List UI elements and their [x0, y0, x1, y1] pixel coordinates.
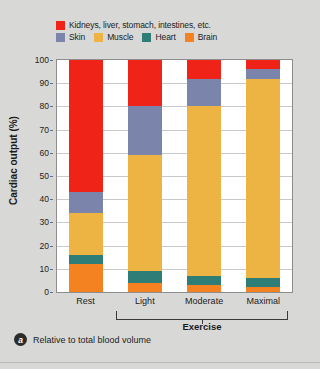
x-tick-label-light: Light — [117, 296, 173, 310]
y-axis: Cardiac output (%) 100908070605040302010… — [0, 59, 53, 293]
stacked-bar-moderate — [187, 60, 221, 292]
y-tick-mark — [50, 60, 53, 61]
bar-segment — [128, 60, 162, 106]
bar-segment — [128, 106, 162, 155]
legend-swatch-skin — [56, 33, 65, 42]
stacked-bar-maximal — [246, 60, 280, 292]
y-axis-title: Cardiac output (%) — [8, 96, 19, 226]
figure-caption: a Relative to total blood volume — [14, 333, 151, 346]
bar-group — [57, 60, 292, 292]
legend-item-muscle: Muscle — [94, 32, 133, 42]
legend-label-kidneys: Kidneys, liver, stomach, intestines, etc… — [69, 20, 211, 30]
x-tick-label-rest: Rest — [58, 296, 114, 310]
bar-segment — [246, 287, 280, 292]
y-tick-mark — [50, 269, 53, 270]
y-tick-label: 40 — [40, 194, 49, 204]
bar-segment — [69, 264, 103, 292]
legend-item-brain: Brain — [185, 32, 217, 42]
y-tick-label: 30 — [40, 217, 49, 227]
stacked-bar-light — [128, 60, 162, 292]
legend-swatch-kidneys — [56, 21, 65, 30]
y-tick-mark — [50, 199, 53, 200]
caption-text: Relative to total blood volume — [33, 335, 151, 345]
y-tick-mark — [50, 153, 53, 154]
y-tick-mark — [50, 106, 53, 107]
y-tick-mark — [50, 292, 53, 293]
bar-segment — [128, 283, 162, 292]
plot-area — [56, 59, 293, 293]
y-tick-label: 0 — [44, 287, 49, 297]
bar-segment — [187, 106, 221, 275]
exercise-group-label: Exercise — [116, 321, 288, 332]
legend-item-kidneys: Kidneys, liver, stomach, intestines, etc… — [56, 20, 211, 30]
bar-segment — [128, 155, 162, 271]
y-tick-label: 70 — [40, 125, 49, 135]
bar-segment — [246, 60, 280, 69]
y-tick-label: 100 — [35, 55, 49, 65]
bar-segment — [187, 60, 221, 79]
y-tick-label: 60 — [40, 148, 49, 158]
x-tick-label-maximal: Maximal — [235, 296, 291, 310]
legend-label-muscle: Muscle — [107, 32, 133, 42]
bar-segment — [187, 285, 221, 292]
y-tick-mark — [50, 130, 53, 131]
bar-segment — [187, 79, 221, 107]
bar-segment — [246, 278, 280, 287]
legend-item-heart: Heart — [142, 32, 175, 42]
legend-label-heart: Heart — [155, 32, 175, 42]
legend-row-1: Kidneys, liver, stomach, intestines, etc… — [56, 20, 288, 30]
x-axis-labels: RestLightModerateMaximal — [56, 296, 293, 310]
legend-label-skin: Skin — [69, 32, 85, 42]
bar-segment — [128, 271, 162, 283]
x-tick-label-moderate: Moderate — [176, 296, 232, 310]
y-tick-label: 90 — [40, 78, 49, 88]
y-tick-label: 80 — [40, 101, 49, 111]
legend-swatch-muscle — [94, 33, 103, 42]
exercise-bracket — [116, 311, 288, 320]
bar-segment — [187, 276, 221, 285]
legend-swatch-brain — [185, 33, 194, 42]
y-tick-label: 50 — [40, 171, 49, 181]
legend-swatch-heart — [142, 33, 151, 42]
bar-segment — [69, 255, 103, 264]
y-tick-mark — [50, 246, 53, 247]
caption-badge: a — [14, 333, 27, 346]
bar-segment — [69, 60, 103, 192]
figure-panel: Kidneys, liver, stomach, intestines, etc… — [0, 0, 320, 369]
y-tick-label: 20 — [40, 241, 49, 251]
chart-legend: Kidneys, liver, stomach, intestines, etc… — [56, 20, 288, 42]
bar-segment — [69, 192, 103, 213]
legend-item-skin: Skin — [56, 32, 85, 42]
bar-segment — [69, 213, 103, 255]
y-tick-mark — [50, 176, 53, 177]
legend-row-2: Skin Muscle Heart Brain — [56, 32, 288, 42]
y-tick-label: 10 — [40, 264, 49, 274]
bar-segment — [246, 69, 280, 78]
y-tick-mark — [50, 83, 53, 84]
y-tick-mark — [50, 222, 53, 223]
bar-segment — [246, 79, 280, 279]
footer-divider — [0, 362, 320, 363]
stacked-bar-rest — [69, 60, 103, 292]
legend-label-brain: Brain — [198, 32, 217, 42]
